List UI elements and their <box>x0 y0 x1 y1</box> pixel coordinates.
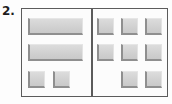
tile-square <box>121 71 138 88</box>
item-number-label: 2. <box>2 4 15 18</box>
right-panel-row-3 <box>93 66 171 93</box>
tile-square <box>97 18 114 35</box>
left-panel-row-3 <box>22 66 101 93</box>
tile-square <box>145 44 162 61</box>
left-panel-grid <box>22 9 91 96</box>
left-panel-row-1 <box>22 13 101 40</box>
right-panel-row-1 <box>93 13 171 40</box>
left-panel-row-2 <box>22 40 101 67</box>
right-panel <box>93 9 167 96</box>
panel-frame <box>21 8 168 97</box>
tile-square <box>145 71 162 88</box>
tile-square <box>121 44 138 61</box>
left-panel <box>22 9 91 96</box>
tile-square <box>97 44 114 61</box>
tile-wide-bar <box>28 44 83 61</box>
right-panel-grid <box>93 9 167 96</box>
tile-square <box>145 18 162 35</box>
tile-wide-bar <box>28 18 83 35</box>
tile-square <box>53 71 70 88</box>
tile-square <box>28 71 45 88</box>
tile-square <box>121 18 138 35</box>
right-panel-row-2 <box>93 40 171 67</box>
figure-root: 2. <box>0 0 172 104</box>
